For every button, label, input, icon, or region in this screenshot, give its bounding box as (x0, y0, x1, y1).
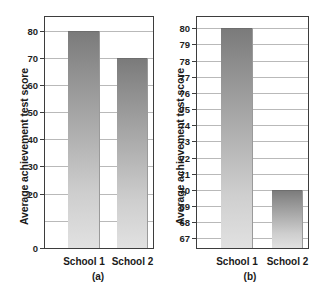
y-axis-tick-label: 40 (27, 134, 38, 145)
y-axis-tick-label: 69 (179, 201, 190, 212)
y-axis-tick-label: 78 (179, 55, 190, 66)
y-axis-tick (192, 44, 197, 45)
y-axis-tick-label: 68 (179, 217, 190, 228)
y-axis-tick-label: 72 (179, 152, 190, 163)
y-axis-tick-label: 70 (179, 184, 190, 195)
y-axis-tick (40, 166, 45, 167)
y-axis-tick-label: 20 (27, 188, 38, 199)
x-axis-tick-label: School 1 (216, 256, 258, 267)
figure-bar-charts: Average achievement test score 020304050… (0, 0, 318, 293)
y-axis-title-a: Average achievement test score (16, 0, 32, 293)
y-axis-tick-label: 73 (179, 136, 190, 147)
bar-a-2 (117, 58, 148, 248)
y-axis-tick (40, 112, 45, 113)
bar-a-1 (68, 31, 100, 248)
y-axis-tick (192, 125, 197, 126)
y-axis-tick-label: 0 (33, 243, 38, 254)
chart-panel-a: Average achievement test score 020304050… (0, 0, 160, 293)
y-axis-tick-label: 67 (179, 233, 190, 244)
bar-b-1 (221, 28, 253, 248)
y-axis-tick-label: 70 (27, 52, 38, 63)
y-axis-tick-label: 30 (27, 161, 38, 172)
panel-caption-a: (a) (18, 271, 178, 282)
y-axis-tick (192, 174, 197, 175)
y-axis-tick (192, 141, 197, 142)
y-axis-tick-label: 77 (179, 71, 190, 82)
plot-area-b: 6768697071727374757677787980School 1Scho… (196, 16, 309, 249)
panel-caption-b: (b) (170, 271, 318, 282)
y-axis-tick (40, 58, 45, 59)
y-axis-tick-label: 75 (179, 104, 190, 115)
y-axis-tick (192, 190, 197, 191)
y-axis-tick (192, 158, 197, 159)
y-axis-tick (192, 93, 197, 94)
y-axis-tick (192, 77, 197, 78)
y-axis-tick (40, 31, 45, 32)
y-axis-tick-label: 60 (27, 79, 38, 90)
x-axis-tick-label: School 2 (112, 256, 154, 267)
x-axis-tick-label: School 2 (267, 256, 309, 267)
plot-area-a: 020304050607080School 1School 2 (44, 16, 154, 249)
y-axis-tick (40, 85, 45, 86)
y-axis-tick (40, 248, 45, 249)
y-axis-tick (192, 206, 197, 207)
y-axis-tick-label: 74 (179, 120, 190, 131)
y-axis-tick (192, 61, 197, 62)
x-axis-tick-label: School 1 (63, 256, 105, 267)
y-axis-tick-label: 80 (27, 25, 38, 36)
y-axis-tick (40, 194, 45, 195)
chart-panel-b: Average achievement test score 676869707… (158, 0, 318, 293)
y-axis-tick (192, 238, 197, 239)
y-axis-tick-label: 79 (179, 39, 190, 50)
bar-b-2 (272, 190, 303, 248)
y-axis-tick (192, 109, 197, 110)
y-axis-tick (40, 139, 45, 140)
y-axis-tick (192, 28, 197, 29)
y-axis-tick-label: 71 (179, 168, 190, 179)
y-axis-tick-label: 80 (179, 23, 190, 34)
y-axis-tick-label: 76 (179, 87, 190, 98)
y-axis-tick-label: 50 (27, 107, 38, 118)
y-axis-tick (192, 222, 197, 223)
